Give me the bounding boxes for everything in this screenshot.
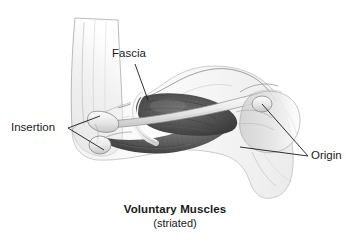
label-origin: Origin <box>311 149 342 162</box>
caption-subtitle: (striated) <box>0 217 350 229</box>
label-fascia: Fascia <box>112 47 146 60</box>
caption-title: Voluntary Muscles <box>0 203 350 215</box>
label-insertion: Insertion <box>11 121 55 134</box>
anatomy-figure: Fascia Insertion Origin Voluntary Muscle… <box>0 0 350 249</box>
